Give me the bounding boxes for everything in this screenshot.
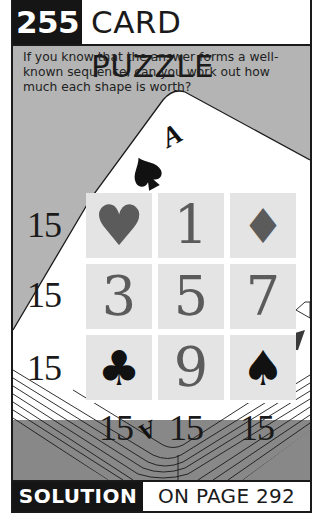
spade-icon: ♠ xyxy=(241,344,284,392)
grid-cell-number: 9 xyxy=(158,335,224,400)
grid-cell-heart: ♥ xyxy=(86,193,152,258)
diamond-icon: ♦ xyxy=(241,202,284,250)
column-sum-3: 15 xyxy=(240,410,274,446)
puzzle-title: CARD PUZZLE xyxy=(91,0,310,44)
puzzle-instructions: If you know that the answer forms a well… xyxy=(23,50,303,95)
grid-cell-club: ♣ xyxy=(86,335,152,400)
heart-icon: ♥ xyxy=(94,198,144,254)
column-sum-1: 15 xyxy=(99,410,133,446)
column-sum-2: 15 xyxy=(169,410,203,446)
row-sum-2: 15 xyxy=(27,277,61,313)
solution-label: SOLUTION xyxy=(13,482,143,511)
header-bar: 255 CARD PUZZLE xyxy=(13,0,310,46)
puzzle-frame: A A 255 CARD PUZZLE If you know that the… xyxy=(11,0,312,513)
grid-cell-number: 5 xyxy=(158,264,224,329)
grid-cell-number: 7 xyxy=(230,264,296,329)
solution-page-reference: ON PAGE 292 xyxy=(143,482,310,511)
footer-bar: SOLUTION ON PAGE 292 xyxy=(13,480,310,511)
puzzle-number: 255 xyxy=(13,0,82,44)
grid-cell-spade: ♠ xyxy=(230,335,296,400)
row-sum-1: 15 xyxy=(27,207,61,243)
grid-cell-number: 1 xyxy=(158,193,224,258)
grid-cell-number: 3 xyxy=(86,264,152,329)
puzzle-grid: ♥ 1 ♦ 3 5 7 ♣ 9 ♠ xyxy=(86,193,296,403)
row-sum-3: 15 xyxy=(27,350,61,386)
grid-cell-diamond: ♦ xyxy=(230,193,296,258)
club-icon: ♣ xyxy=(97,344,140,392)
